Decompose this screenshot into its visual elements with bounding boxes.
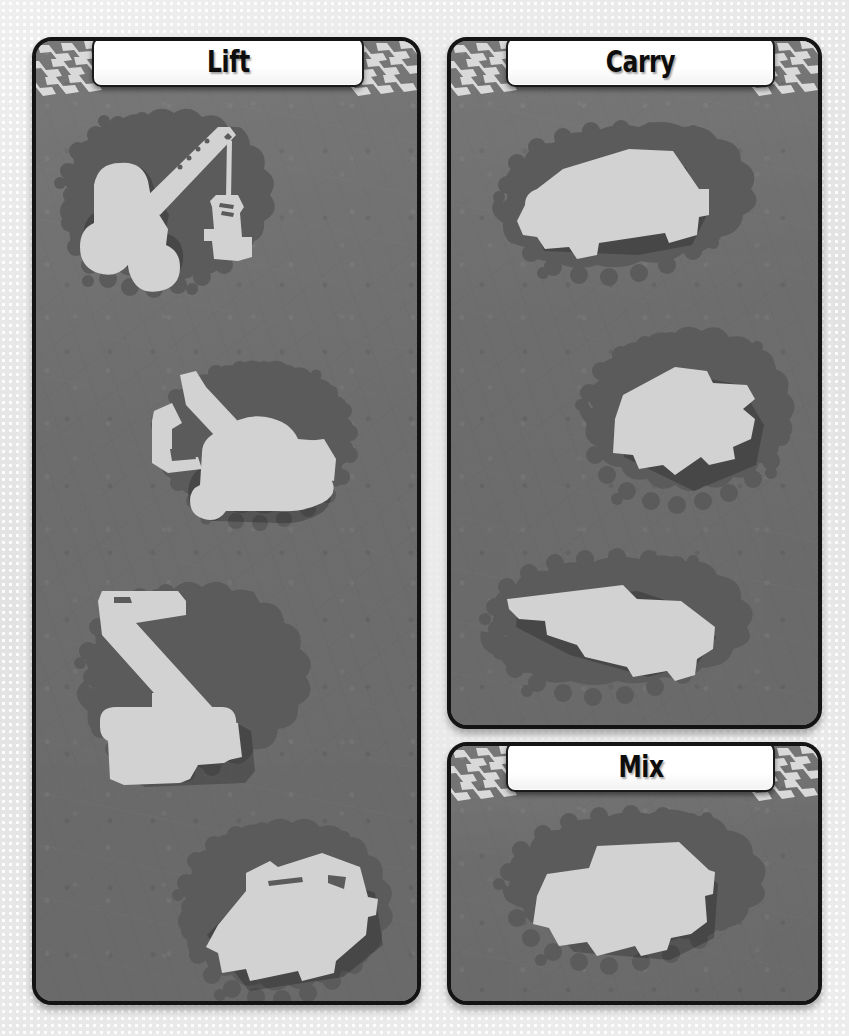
panel-title-carry: Carry	[606, 47, 675, 77]
dump-truck-silhouette[interactable]	[559, 323, 822, 543]
panel-lift[interactable]: Lift	[32, 37, 421, 1005]
pickup-truck-silhouette[interactable]	[473, 109, 763, 329]
flatbed-truck-silhouette[interactable]	[459, 541, 759, 729]
crane-truck-silhouette[interactable]	[42, 99, 342, 334]
panel-title-plate-mix[interactable]: Mix	[506, 742, 775, 792]
excavator-silhouette[interactable]	[136, 353, 406, 568]
panel-carry[interactable]: Carry	[447, 37, 822, 729]
panel-title-plate-carry[interactable]: Carry	[506, 37, 775, 87]
panel-mix[interactable]: Mix	[447, 742, 822, 1005]
panel-title-mix: Mix	[618, 752, 663, 782]
panel-title-plate-lift[interactable]: Lift	[92, 37, 364, 87]
panel-title-lift: Lift	[207, 47, 250, 77]
telehandler-silhouette[interactable]	[58, 571, 338, 836]
forklift-silhouette[interactable]	[156, 813, 421, 1005]
cement-mixer-silhouette[interactable]	[473, 794, 773, 1005]
